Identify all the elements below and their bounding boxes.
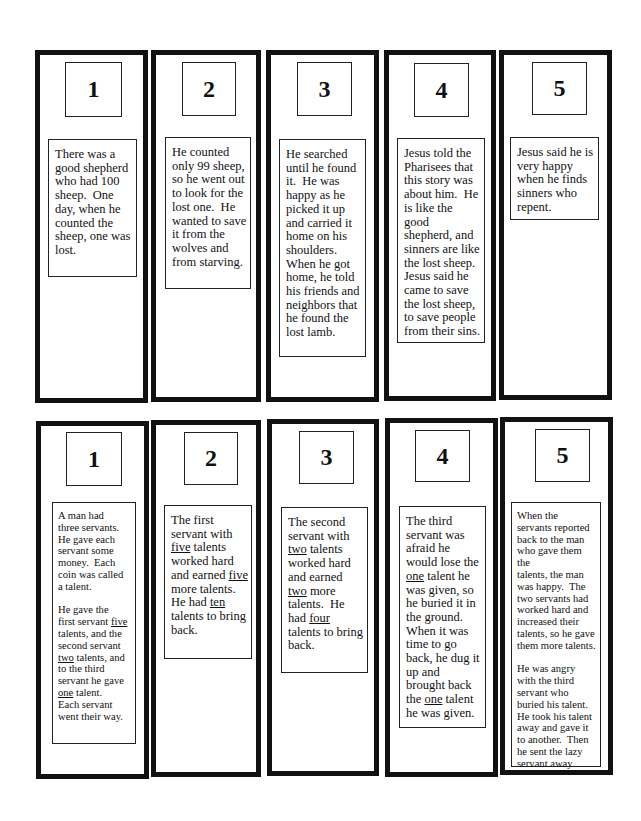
card-text-line: servant some bbox=[58, 545, 132, 557]
card-text-line: servant who bbox=[517, 687, 597, 699]
text-run: talent bbox=[442, 692, 473, 706]
card-text-line: Jesus said he bbox=[404, 270, 481, 284]
underlined-word: five bbox=[111, 616, 127, 627]
card-text-line: He counted bbox=[172, 146, 247, 160]
card-text-box: The first servant with five talents work… bbox=[164, 505, 252, 659]
card-text-line: He gave each bbox=[58, 534, 132, 546]
card-text-line: wanted to save bbox=[172, 215, 247, 229]
card-text-line: shepherd, and bbox=[404, 229, 481, 243]
card-number: 2 bbox=[203, 76, 215, 103]
card-number-box: 3 bbox=[297, 62, 352, 116]
card-text-line: two talents, and bbox=[58, 652, 132, 664]
card-text-line: Jesus told the bbox=[404, 147, 481, 161]
card-text-line: was given, so bbox=[406, 584, 482, 598]
card-text-line: the one talent bbox=[406, 693, 482, 707]
card-number: 3 bbox=[319, 76, 331, 103]
card-text-line: lost one. He bbox=[172, 201, 247, 215]
card-text-line: came to save bbox=[404, 284, 481, 298]
card-text-line: away and gave it bbox=[517, 722, 597, 734]
card-text-line: first servant five bbox=[58, 616, 132, 628]
card-number-box: 1 bbox=[65, 62, 122, 117]
card-text-line: when he finds bbox=[517, 173, 595, 187]
text-run: talents bbox=[190, 540, 226, 554]
card-text-line: who gave them the bbox=[517, 545, 597, 569]
card-text-line: he buried it in bbox=[406, 597, 482, 611]
card-text-line: back. bbox=[171, 624, 248, 638]
text-run: talents bbox=[307, 542, 343, 556]
card-text-line: brought back bbox=[406, 679, 482, 693]
card-text-line: counted the bbox=[55, 217, 133, 231]
underlined-word: ten bbox=[210, 595, 225, 609]
card-text-line: two talents bbox=[288, 543, 364, 557]
card-text-line: two more bbox=[288, 585, 364, 599]
card-text-line: afraid he bbox=[406, 542, 482, 556]
card-text-line: it from the bbox=[172, 228, 247, 242]
card-text-line: picked it up bbox=[286, 203, 362, 217]
card-text-line: one talent. bbox=[58, 687, 132, 699]
card-text-line: to save people bbox=[404, 311, 481, 325]
card-number-box: 5 bbox=[532, 62, 587, 115]
underlined-word: five bbox=[229, 568, 248, 582]
card-text-box: A man had three servants. He gave each s… bbox=[52, 502, 136, 744]
card-text-line: sheep, one was bbox=[55, 230, 133, 244]
card-text-line: servants reported bbox=[517, 522, 597, 534]
card-text-line: is like the bbox=[404, 202, 481, 216]
card-text-line: to look for the bbox=[172, 187, 247, 201]
card-text-line: Each servant bbox=[58, 699, 132, 711]
underlined-word: one bbox=[424, 692, 442, 706]
card-text-line: wolves and bbox=[172, 242, 247, 256]
card-text-line: servant away. bbox=[517, 758, 597, 770]
card-text-line: servant with bbox=[171, 528, 248, 542]
card-text-line: servant he gave bbox=[58, 675, 132, 687]
card-text-line: buried his talent. bbox=[517, 699, 597, 711]
card-text-line: When the bbox=[517, 510, 597, 522]
card-text-line: day, when he bbox=[55, 203, 133, 217]
card-text-line: about him. He bbox=[404, 188, 481, 202]
card-text-line: sinners who bbox=[517, 187, 595, 201]
card-text-line: had four bbox=[288, 612, 364, 626]
card-number-box: 5 bbox=[535, 429, 590, 482]
card-text-box: There was a good shepherd who had 100 sh… bbox=[48, 139, 137, 277]
card-text-box: Jesus said he is very happy when he find… bbox=[510, 137, 599, 220]
card-text-line: more talents. bbox=[171, 583, 248, 597]
card-text-line: shoulders. bbox=[286, 244, 362, 258]
card-text-line: worked hard bbox=[171, 555, 248, 569]
underlined-word: one bbox=[58, 687, 73, 698]
card-text-line: There was a bbox=[55, 148, 133, 162]
card-text-line: home, he told bbox=[286, 271, 362, 285]
card-text-line: one talent he bbox=[406, 570, 482, 584]
card-text-line: only 99 sheep, bbox=[172, 160, 247, 174]
card-text-box: He counted only 99 sheep, so he went out… bbox=[165, 137, 251, 289]
card-text-line: When he got bbox=[286, 258, 362, 272]
card-text-line: worked hard bbox=[288, 557, 364, 571]
underlined-word: two bbox=[58, 652, 74, 663]
card-number: 1 bbox=[88, 76, 100, 103]
card-number: 4 bbox=[436, 77, 448, 104]
text-run: the bbox=[406, 692, 424, 706]
card-text-line: increased their bbox=[517, 616, 597, 628]
card-text-line: and earned bbox=[288, 571, 364, 585]
card-number-box: 4 bbox=[414, 63, 469, 117]
underlined-word: four bbox=[309, 611, 330, 625]
card-text-line: up and bbox=[406, 666, 482, 680]
text-run: talent he bbox=[424, 569, 470, 583]
card-text-line: from their sins. bbox=[404, 325, 481, 339]
card-text-line: neighbors that bbox=[286, 299, 362, 313]
card-number: 3 bbox=[321, 444, 333, 471]
card-text-line: lost. bbox=[55, 244, 133, 258]
card-text-line: When it was bbox=[406, 625, 482, 639]
card-text-line: The third bbox=[406, 515, 482, 529]
card-text-line: good bbox=[404, 216, 481, 230]
card-text-box: When the servants reported back to the m… bbox=[511, 502, 601, 767]
card-text-line: he was given. bbox=[406, 707, 482, 721]
card-text-line: The first bbox=[171, 514, 248, 528]
card-text-line: very happy bbox=[517, 160, 595, 174]
card-text-line: his friends and bbox=[286, 285, 362, 299]
underlined-word: five bbox=[171, 540, 190, 554]
card-text-line: was happy. The bbox=[517, 581, 597, 593]
card-text-line: two servants had bbox=[517, 593, 597, 605]
card-text-line: the ground. bbox=[406, 611, 482, 625]
card-text-line: talents to bring bbox=[288, 626, 364, 640]
card-text-line: coin was called bbox=[58, 569, 132, 581]
card-text-line: it. He was bbox=[286, 175, 362, 189]
